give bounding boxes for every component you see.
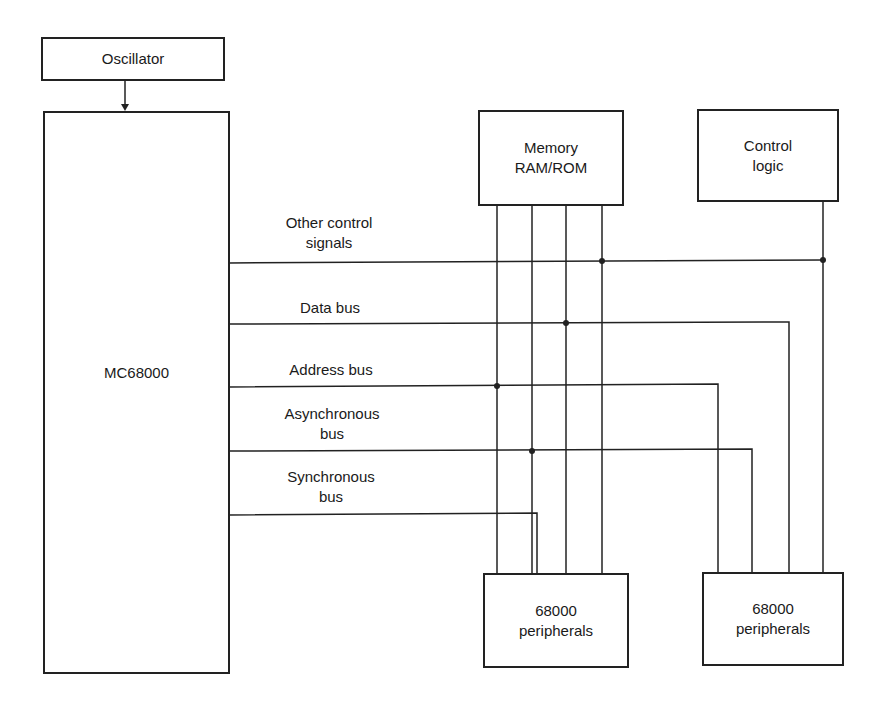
cpu-label: MC68000 [104,363,169,383]
memory-label-1: Memory [524,138,578,158]
bus-label-address: Address bus [289,360,372,380]
oscillator-label: Oscillator [102,49,165,69]
oscillator-block: Oscillator [41,37,225,81]
memory-label-2: RAM/ROM [515,158,588,178]
bus-label-line: signals [286,233,373,253]
peripherals-2-label-2: peripherals [736,619,810,639]
bus-label-line: Asynchronous [284,404,379,424]
bus-label-line: Synchronous [287,467,375,487]
control-logic-block: Control logic [697,109,839,202]
bus-label-asynchronous: Asynchronous bus [284,404,379,444]
bus-label-line: Address bus [289,360,372,380]
bus-label-other-control: Other control signals [286,213,373,253]
bus-label-line: bus [287,487,375,507]
bus-label-line: bus [284,424,379,444]
control-logic-label-1: Control [744,136,792,156]
peripherals-1-label-1: 68000 [535,601,577,621]
bus-label-synchronous: Synchronous bus [287,467,375,507]
peripherals-1-label-2: peripherals [519,621,593,641]
control-logic-label-2: logic [753,156,784,176]
bus-label-line: Other control [286,213,373,233]
cpu-block: MC68000 [43,111,230,674]
bus-label-line: Data bus [300,298,360,318]
bus-label-data: Data bus [300,298,360,318]
peripherals-block-1: 68000 peripherals [483,573,629,668]
memory-block: Memory RAM/ROM [478,110,624,206]
peripherals-block-2: 68000 peripherals [702,572,844,666]
peripherals-2-label-1: 68000 [752,599,794,619]
